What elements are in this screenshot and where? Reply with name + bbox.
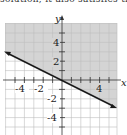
x-tick-label: -2: [34, 83, 44, 94]
x-tick-label: 4: [96, 83, 102, 94]
y-tick-label: -2: [47, 93, 57, 104]
shaded-solution-region: [5, 23, 117, 108]
y-tick-label: 2: [53, 56, 59, 67]
y-axis-label: y: [54, 13, 61, 24]
inequality-graph: -4 -2 4 4 2 -2 -4 y x: [0, 0, 127, 135]
y-tick-label: 4: [53, 37, 59, 48]
y-tick-label: -4: [47, 112, 57, 123]
x-axis-label: x: [121, 77, 127, 88]
x-tick-label: -4: [15, 83, 25, 94]
